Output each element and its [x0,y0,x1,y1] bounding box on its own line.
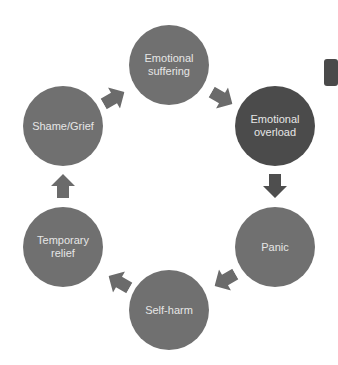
node-temporary-relief: Temporary relief [23,207,103,287]
node-label-line2: relief [37,247,89,260]
node-label-line1: Temporary [37,234,89,247]
node-panic: Panic [235,207,315,287]
node-label-line1: Self-harm [145,304,193,317]
arrow-overload-to-panic-icon [263,174,287,198]
edge-tab [324,59,338,86]
node-label-line1: Shame/Grief [32,120,94,133]
arrow-panic-to-selfharm-icon [209,264,242,297]
node-label-line1: Emotional [251,113,300,126]
node-shame-grief: Shame/Grief [23,86,103,166]
node-label-line1: Emotional [145,52,194,65]
node-label-line2: suffering [145,65,194,78]
node-label-line1: Panic [261,241,289,254]
node-self-harm: Self-harm [129,270,209,350]
arrow-suffering-to-overload-icon [206,82,239,115]
arrow-shame-to-suffering-icon [98,82,131,115]
node-label-line2: overload [251,126,300,139]
node-emotional-suffering: Emotional suffering [129,25,209,105]
arrow-selfharm-to-relief-icon [103,266,136,299]
node-emotional-overload: Emotional overload [235,86,315,166]
arrow-relief-to-shame-icon [51,174,75,198]
